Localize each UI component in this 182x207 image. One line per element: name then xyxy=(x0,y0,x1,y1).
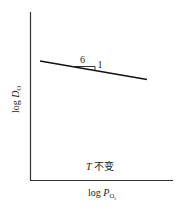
data-line xyxy=(40,61,147,80)
slope-rise-label: 1 xyxy=(98,59,103,70)
y-axis-label: log DO xyxy=(10,85,22,113)
condition-annotation: T 不变 xyxy=(86,160,114,172)
slope-run-label: 6 xyxy=(80,54,85,65)
x-axis-label: log PO2 xyxy=(88,187,116,201)
diagram-figure: 6 1 log DO T 不变 log PO2 xyxy=(0,0,182,207)
